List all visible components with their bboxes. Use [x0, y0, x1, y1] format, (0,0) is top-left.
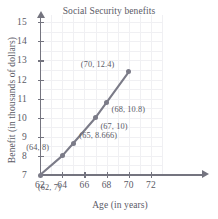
- data-point-label: (62, 7): [38, 183, 61, 192]
- x-axis-title: Age (in years): [30, 200, 210, 210]
- data-point-label: (67, 10): [101, 122, 128, 131]
- data-point-marker: [104, 100, 109, 105]
- y-axis-title: Benefit (in thousands of dollars): [7, 20, 17, 180]
- data-point-marker: [38, 173, 43, 178]
- data-point-label: (65, 8.666): [79, 131, 117, 140]
- data-point-label: (64, 8): [26, 143, 49, 152]
- series-line: [0, 0, 218, 219]
- data-point-label: (68, 10.8): [112, 105, 146, 114]
- data-point-marker: [71, 141, 76, 146]
- chart-figure: Social Security benefits 626466687072789…: [0, 0, 218, 219]
- data-point-label: (70, 12.4): [81, 60, 115, 69]
